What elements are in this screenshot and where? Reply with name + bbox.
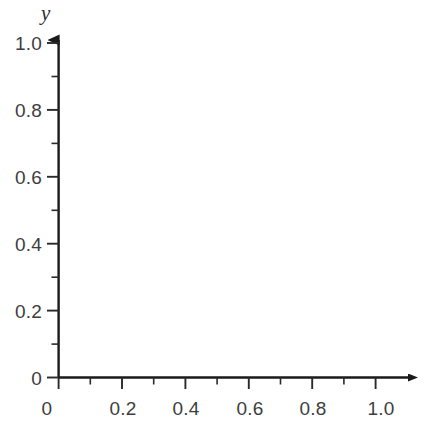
y-tick-label-0-6: 0.6 (0, 167, 42, 186)
x-tick-label-0-8: 0.8 (299, 399, 326, 418)
y-axis-title: y (41, 3, 50, 24)
x-tick-label-0-4: 0.4 (172, 399, 199, 418)
chart-figure: y 0 0.2 0.4 0.6 0.8 1.0 0 0.2 0.4 0.6 0.… (0, 0, 425, 428)
x-tick-label-0-2: 0.2 (109, 399, 136, 418)
y-tick-label-0-8: 0.8 (0, 100, 42, 119)
axes-canvas (0, 0, 425, 428)
y-tick-label-0: 0 (0, 368, 42, 387)
y-tick-label-0-4: 0.4 (0, 234, 42, 253)
x-tick-label-0-6: 0.6 (236, 399, 263, 418)
y-tick-label-0-2: 0.2 (0, 301, 42, 320)
x-tick-label-1-0: 1.0 (367, 399, 394, 418)
y-tick-label-1-0: 1.0 (0, 34, 42, 53)
x-tick-label-0: 0 (42, 399, 53, 418)
